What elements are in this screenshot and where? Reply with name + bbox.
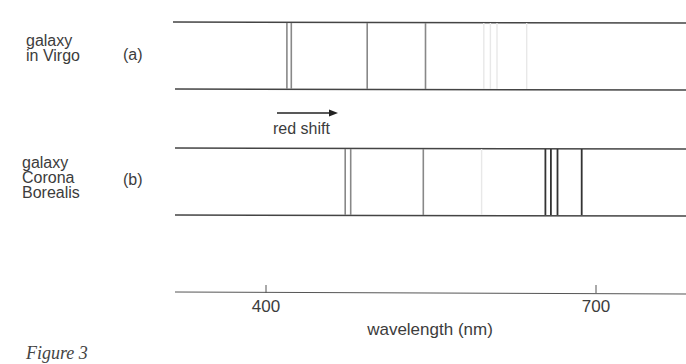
red-shift-label: red shift [273,120,330,137]
axis-tick-label: 400 [252,297,280,316]
spectrum-a-top-border [173,22,686,23]
axis-tick-label: 700 [582,297,610,316]
figure-caption: Figure 3 [26,343,88,364]
wavelength-axis: 400700 [175,285,686,316]
arrow-head [329,110,338,117]
axis-label: wavelength (nm) [366,320,493,339]
spectrum-a [173,22,686,90]
red-shift-arrow [277,110,338,117]
spectrum-b-top-border [175,148,686,149]
axis-line [175,292,686,294]
spectrum-b-bottom-border [175,215,686,216]
spectrum-a-bottom-border [175,89,686,90]
spectrum-b [175,148,686,216]
